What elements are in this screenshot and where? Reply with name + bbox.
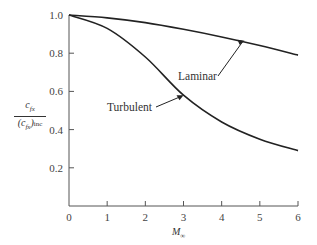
x-tick-label: 2 [143, 211, 149, 223]
x-axis-label: M∞ [172, 226, 185, 240]
y-axis-label: cfx (cfx)inc [14, 99, 46, 133]
series-laminar [69, 15, 298, 55]
annotations: LaminarTurbulent [107, 40, 245, 113]
x-tick-label: 0 [66, 211, 72, 223]
x-tick-label: 4 [219, 211, 225, 223]
y-tick-label: 0.8 [49, 47, 63, 59]
axes [69, 15, 298, 206]
y-tick-label: 0.2 [49, 162, 63, 174]
curves [69, 15, 298, 151]
x-tick-label: 5 [257, 211, 263, 223]
y-tick-label: 0.4 [49, 124, 63, 136]
laminar-label: Laminar [178, 70, 217, 82]
turbulent-arrow [156, 96, 182, 107]
x-tick-label: 3 [181, 211, 187, 223]
turbulent-label: Turbulent [107, 101, 153, 113]
x-tick-label: 1 [104, 211, 110, 223]
chart-plot: 01234560.20.40.60.81.0 LaminarTurbulent [0, 0, 317, 245]
y-tick-label: 1.0 [49, 9, 63, 21]
y-tick-label: 0.6 [49, 85, 63, 97]
x-tick-label: 6 [295, 211, 301, 223]
series-turbulent [69, 15, 298, 151]
ticks: 01234560.20.40.60.81.0 [49, 9, 301, 223]
laminar-arrow [218, 42, 243, 76]
